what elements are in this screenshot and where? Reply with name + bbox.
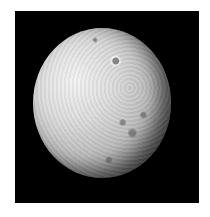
crater-texture xyxy=(33,28,171,178)
photo-frame xyxy=(15,11,199,203)
moon xyxy=(33,28,171,178)
